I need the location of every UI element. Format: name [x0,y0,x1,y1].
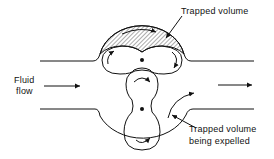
outlet-lower-wall [186,109,254,115]
lower-housing [100,115,186,138]
expelled-label-1: Trapped volume [189,124,257,134]
fluid-flow-label-2: flow [16,86,33,96]
fluid-flow-label-1: Fluid [14,75,35,85]
outlet-upper-wall [184,54,254,61]
inlet-upper-wall [40,54,100,61]
inlet-lower-wall [40,109,100,116]
expelled-label-2: being expelled [189,136,250,146]
trapped-volume-label: Trapped volume [181,6,249,16]
